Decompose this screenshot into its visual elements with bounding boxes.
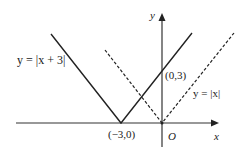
graph-canvas: y = |x + 3| y = |x| (0,3) (−3,0) O x y [0,0,242,154]
label-x-axis: x [213,130,219,142]
label-abs-x: y = |x| [193,87,220,99]
y-axis-arrow-icon [159,13,166,21]
label-point-0-3: (0,3) [165,69,186,82]
label-y-axis: y [149,9,155,21]
origin-point [161,122,164,125]
label-abs-x-plus-3: y = |x + 3| [17,53,65,67]
label-point-neg3-0: (−3,0) [108,128,136,141]
label-origin: O [168,130,176,142]
x-axis-arrow-icon [211,120,219,127]
